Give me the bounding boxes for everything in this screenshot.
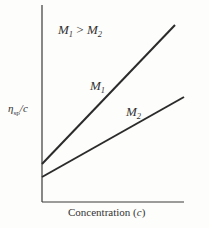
chart-canvas: M1 > M2 M1 M2 ηsp/c Concentration (c) (0, 0, 209, 228)
plot-area (0, 0, 209, 228)
series-m2-label: M2 (126, 104, 141, 121)
x-axis-label: Concentration (c) (68, 206, 145, 218)
y-axis-label: ηsp/c (8, 102, 28, 117)
series-m1-label: M1 (90, 78, 105, 95)
series-m1-line (42, 25, 175, 164)
annotation-m1-gt-m2: M1 > M2 (58, 22, 102, 39)
series-m2-line (42, 97, 184, 177)
